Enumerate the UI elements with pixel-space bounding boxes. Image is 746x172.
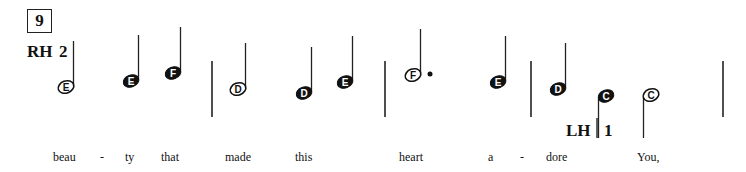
lyric-syllable: that: [161, 150, 179, 165]
note-d: D: [548, 43, 567, 97]
note-letter: D: [234, 84, 241, 95]
lyric-syllable: You,: [637, 150, 659, 165]
lyric-syllable: heart: [399, 150, 423, 165]
note-f: F: [403, 29, 432, 83]
note-e: E: [488, 36, 507, 90]
lyric-syllable: made: [225, 150, 251, 165]
lyric-syllable: this: [295, 150, 312, 165]
note-letter: E: [342, 77, 349, 88]
note-f: F: [163, 27, 182, 81]
music-notation: EEFDDEFEDCC: [0, 0, 746, 172]
note-letter: C: [647, 90, 654, 101]
note-letter: C: [602, 91, 609, 102]
note-letter: F: [410, 70, 416, 81]
note-letter: E: [495, 77, 502, 88]
note-letter: D: [554, 84, 561, 95]
lyric-syllable: -: [520, 150, 524, 165]
note-d: D: [294, 47, 313, 101]
note-letter: D: [300, 88, 307, 99]
dot: [428, 72, 433, 77]
note-e: E: [56, 41, 75, 95]
note-c: C: [596, 88, 615, 138]
note-d: D: [228, 43, 247, 97]
lyric-syllable: beau: [53, 150, 76, 165]
lyric-syllable: -: [100, 150, 104, 165]
lyric-syllable: dore: [546, 150, 567, 165]
note-letter: E: [63, 82, 70, 93]
note-e: E: [335, 36, 354, 90]
note-letter: F: [170, 68, 176, 79]
lyric-syllable: a: [488, 150, 493, 165]
note-letter: E: [128, 76, 135, 87]
note-c: C: [641, 87, 660, 138]
note-e: E: [121, 35, 140, 89]
lyric-syllable: ty: [125, 150, 134, 165]
